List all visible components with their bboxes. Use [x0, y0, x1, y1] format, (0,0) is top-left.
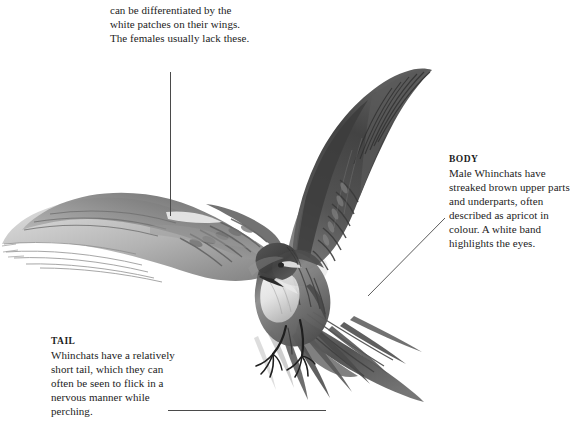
annotation-body: BODY Male Whinchats have streaked brown …	[449, 152, 571, 250]
head-cap	[256, 243, 299, 281]
leader-line-tail	[168, 410, 326, 411]
annotation-tail-heading: TAIL	[51, 334, 187, 348]
tail	[254, 312, 424, 402]
annotation-wings: Male and female Whinchats can be differe…	[110, 0, 251, 45]
leader-line-body	[360, 210, 456, 306]
white-wing-patch	[166, 211, 222, 223]
annotation-tail: TAIL Whinchats have a relatively short t…	[51, 334, 187, 418]
white-eye-band	[282, 261, 302, 268]
annotation-body-heading: BODY	[449, 152, 571, 166]
page-root: WINGS Male and female Whinchats can be d…	[0, 0, 574, 429]
beak	[259, 274, 284, 287]
apricot-underparts	[260, 269, 299, 322]
legs-and-feet	[256, 320, 315, 377]
left-wing	[2, 193, 284, 282]
annotation-wings-text: Male and female Whinchats can be differe…	[110, 0, 251, 45]
wash-shadows	[248, 250, 328, 286]
eye	[278, 262, 284, 267]
body	[255, 250, 331, 347]
head	[256, 243, 302, 294]
leader-line-wings	[170, 72, 171, 216]
annotation-body-text: Male Whinchats have streaked brown upper…	[449, 166, 571, 250]
annotation-tail-text: Whinchats have a relatively short tail, …	[51, 348, 187, 418]
